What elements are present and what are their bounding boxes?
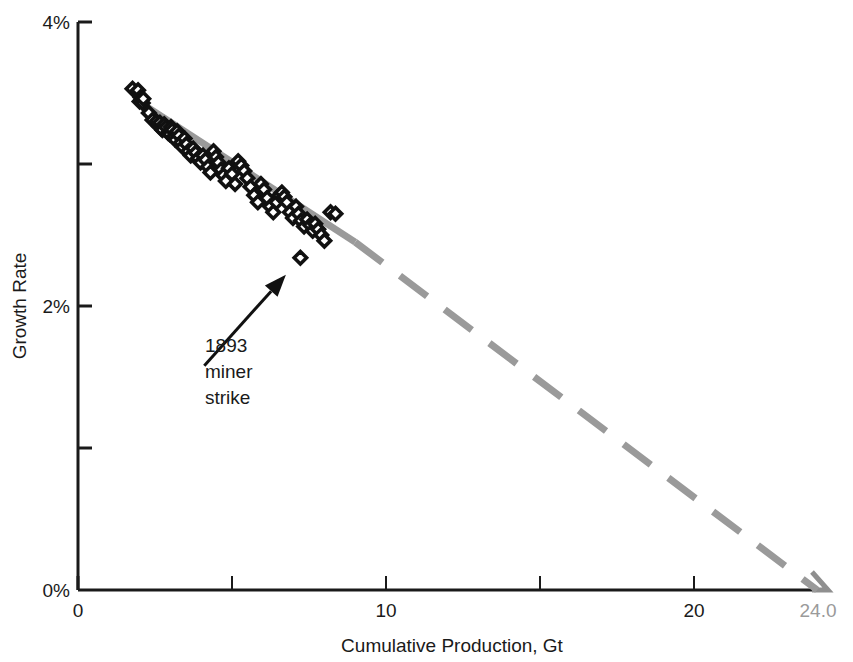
y-axis-tick-labels: 4% 2% 0% bbox=[43, 12, 71, 601]
x-tick-label-10: 10 bbox=[375, 600, 396, 621]
x-tick-label-0: 0 bbox=[73, 600, 84, 621]
data-point-marker bbox=[229, 178, 241, 190]
data-point-marker bbox=[137, 92, 149, 104]
chart-container: 4% 2% 0% 0 10 20 24.0 Cumulative Product… bbox=[0, 0, 853, 662]
y-axis-ticks bbox=[78, 22, 92, 448]
y-tick-label-2: 2% bbox=[43, 296, 71, 317]
growth-rate-scatter-chart: 4% 2% 0% 0 10 20 24.0 Cumulative Product… bbox=[0, 0, 853, 662]
data-point-marker bbox=[329, 208, 341, 220]
miner-strike-annotation: 1893 miner strike bbox=[204, 275, 286, 408]
x-axis-end-label: 24.0 bbox=[800, 600, 837, 621]
x-axis-tick-labels: 0 10 20 24.0 bbox=[73, 600, 837, 621]
scatter-series-0 bbox=[126, 83, 341, 247]
scatter-points-layer bbox=[126, 83, 341, 264]
annotation-line-2: miner bbox=[205, 361, 253, 382]
trend-line-dashed bbox=[355, 242, 817, 590]
x-tick-label-20: 20 bbox=[683, 600, 704, 621]
x-axis-title: Cumulative Production, Gt bbox=[341, 635, 563, 656]
y-axis-title: Growth Rate bbox=[9, 253, 30, 360]
y-tick-label-0: 0% bbox=[43, 580, 71, 601]
scatter-series-1 bbox=[294, 252, 306, 264]
data-point-marker bbox=[318, 234, 330, 246]
y-tick-label-4: 4% bbox=[43, 12, 71, 33]
data-point-marker bbox=[294, 252, 306, 264]
annotation-line-3: strike bbox=[205, 387, 250, 408]
axes-group bbox=[78, 22, 828, 590]
annotation-line-1: 1893 bbox=[205, 335, 247, 356]
x-axis-ticks bbox=[78, 576, 694, 590]
